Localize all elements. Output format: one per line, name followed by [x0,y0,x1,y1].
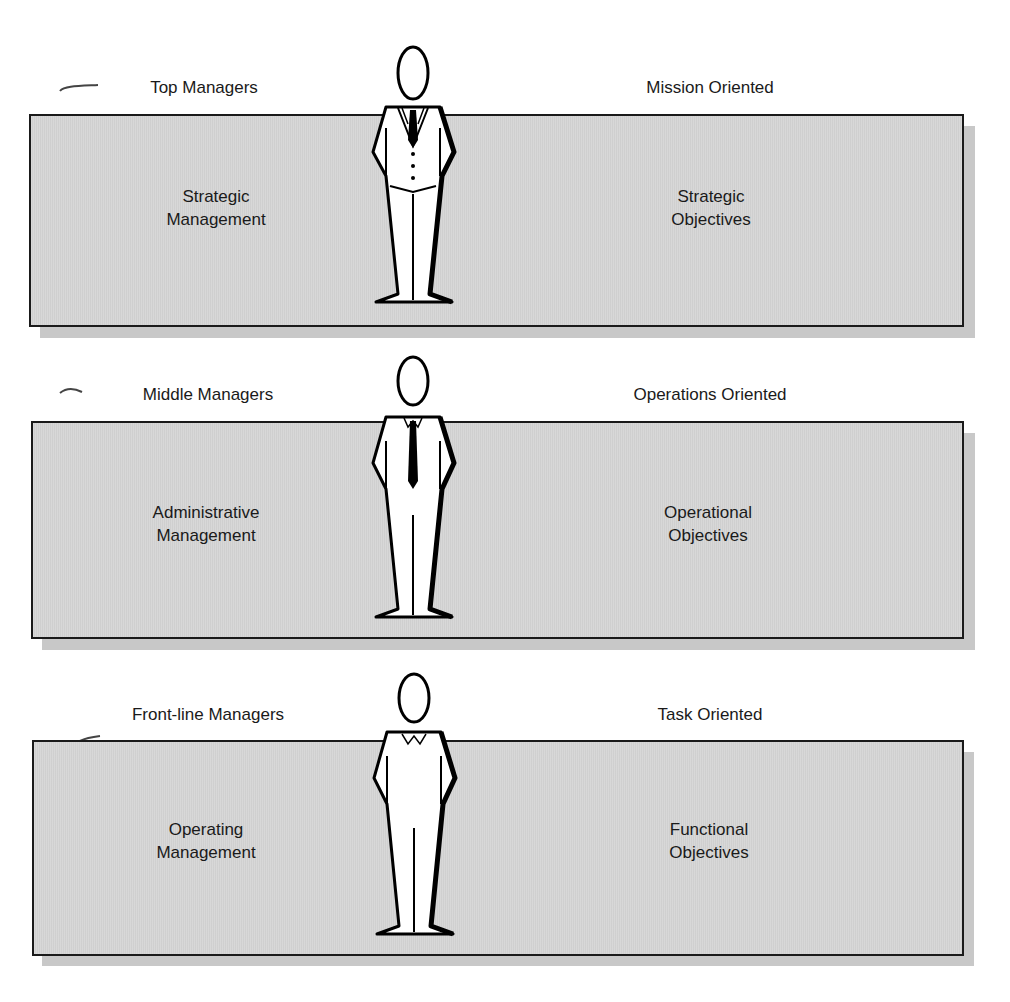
management-line-1: Administrative [153,501,260,524]
level-label: Front-line Managers [132,703,284,726]
objectives-line-2: Objectives [664,524,752,547]
management-line-2: Management [153,524,260,547]
middle-manager-figure-icon [368,355,460,623]
management-type: Operating Management [156,818,255,864]
objectives-line-1: Operational [664,501,752,524]
management-line-2: Management [166,208,265,231]
objectives-type: Strategic Objectives [671,185,750,231]
front-line-manager-figure-icon [369,672,461,940]
management-type: Administrative Management [153,501,260,547]
management-line-1: Operating [156,818,255,841]
orientation-label: Operations Oriented [633,383,786,406]
level-label: Top Managers [150,76,258,99]
management-line-1: Strategic [166,185,265,208]
objectives-line-1: Functional [669,818,748,841]
orientation-label: Mission Oriented [646,76,774,99]
management-type: Strategic Management [166,185,265,231]
objectives-line-1: Strategic [671,185,750,208]
management-line-2: Management [156,841,255,864]
orientation-label: Task Oriented [658,703,763,726]
objectives-line-2: Objectives [669,841,748,864]
level-label: Middle Managers [143,383,273,406]
objectives-type: Operational Objectives [664,501,752,547]
objectives-line-2: Objectives [671,208,750,231]
pen-mark-icon [58,386,84,396]
pen-mark-icon [58,82,102,94]
top-manager-figure-icon [368,44,460,308]
objectives-type: Functional Objectives [669,818,748,864]
